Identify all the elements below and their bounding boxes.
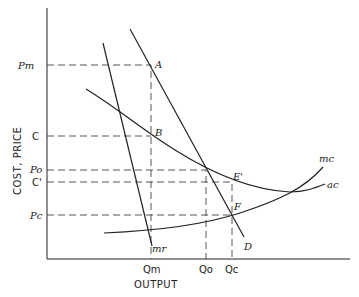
y-tick-c: C <box>32 131 39 142</box>
point-f-label: F <box>233 201 242 212</box>
point-e-prime-label: E' <box>232 171 243 182</box>
y-tick-c-prime: C' <box>32 177 42 188</box>
x-tick-qo: Qo <box>199 264 213 275</box>
point-a-label: A <box>154 59 162 70</box>
y-tick-pm: Pm <box>17 60 34 71</box>
demand-curve <box>130 29 244 237</box>
mr-label: mr <box>152 243 167 254</box>
x-tick-qc: Qc <box>225 264 238 275</box>
ac-label: ac <box>327 179 339 190</box>
po-guide-line <box>47 170 206 259</box>
x-tick-qm: Qm <box>143 264 161 275</box>
pm-guide-line <box>47 65 151 259</box>
y-tick-pc: Pc <box>29 210 43 221</box>
y-tick-po: Po <box>29 164 42 175</box>
average-cost-curve <box>86 89 325 192</box>
point-b-label: B <box>154 127 162 138</box>
mc-label: mc <box>319 153 334 164</box>
marginal-revenue-curve <box>103 43 152 246</box>
cost-price-diagram: Pm C Po C' Pc COST, PRICE Qm Qo Qc OUTPU… <box>0 0 359 297</box>
demand-label: D <box>243 241 252 252</box>
x-axis-title: OUTPUT <box>134 279 178 290</box>
marginal-cost-curve <box>104 167 323 233</box>
y-axis-title: COST, PRICE <box>12 127 23 195</box>
